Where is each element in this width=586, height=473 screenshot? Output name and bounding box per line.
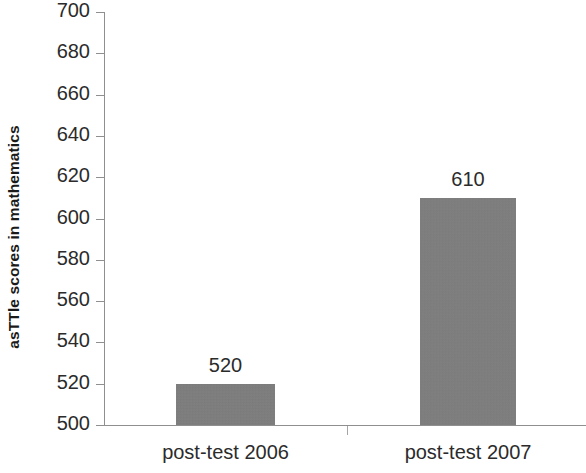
x-axis-category-label: post-test 2006 — [116, 441, 336, 464]
bar-value-label: 520 — [166, 354, 286, 377]
y-axis-tick-label: 640 — [57, 123, 90, 146]
y-axis-tick-mark — [96, 12, 105, 13]
y-axis-tick-label: 660 — [57, 82, 90, 105]
y-axis-tick-mark — [96, 177, 105, 178]
x-axis-category-label: post-test 2007 — [358, 441, 578, 464]
bar-value-label: 610 — [408, 168, 528, 191]
y-axis-tick-label: 600 — [57, 206, 90, 229]
bar-chart: asTTle scores in mathematics 70068066064… — [0, 0, 586, 473]
bar — [420, 198, 516, 425]
y-axis-title: asTTle scores in mathematics — [0, 0, 28, 473]
y-axis-tick-label: 540 — [57, 329, 90, 352]
y-axis-tick-mark — [96, 53, 105, 54]
y-axis-tick-mark — [96, 136, 105, 137]
y-axis-tick-label: 700 — [57, 0, 90, 22]
x-axis-category-divider — [347, 426, 348, 435]
y-axis-tick-mark — [96, 95, 105, 96]
y-axis-title-text: asTTle scores in mathematics — [5, 125, 23, 348]
y-axis-tick-mark — [96, 301, 105, 302]
y-axis-tick-mark — [96, 260, 105, 261]
y-axis-tick-mark — [96, 219, 105, 220]
y-axis-tick-label: 620 — [57, 164, 90, 187]
y-axis-tick-label: 680 — [57, 40, 90, 63]
y-axis-tick-label: 580 — [57, 247, 90, 270]
y-axis-tick-mark — [96, 384, 105, 385]
y-axis-tick-label: 500 — [57, 412, 90, 435]
bar — [176, 384, 275, 425]
x-axis-line — [104, 425, 586, 426]
y-axis-tick-label: 520 — [57, 371, 90, 394]
y-axis-tick-mark — [96, 342, 105, 343]
y-axis-tick-label: 560 — [57, 288, 90, 311]
